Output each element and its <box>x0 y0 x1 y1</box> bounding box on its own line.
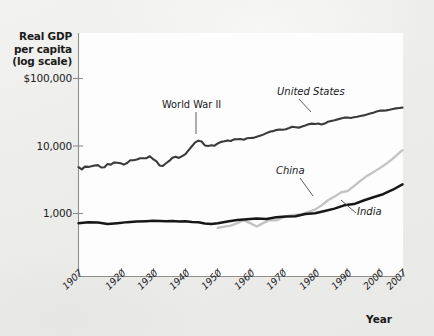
y-axis-title: Real GDP per capita (log scale) <box>6 30 72 68</box>
x-axis-title: Year <box>366 313 392 325</box>
y-tick-label-1000: 1,000 <box>6 207 72 219</box>
annotation-world-war-ii: World War II <box>162 99 221 110</box>
y-tick-label-100000: $100,000 <box>6 72 72 84</box>
y-tick-label-10000: 10,000 <box>6 140 72 152</box>
annotation-united-states: United States <box>277 86 345 97</box>
annotation-india: India <box>357 206 382 217</box>
series-line-united-states <box>79 108 403 170</box>
leader-line-united-states <box>299 99 311 112</box>
annotation-china: China <box>276 165 305 176</box>
leader-line-china <box>300 178 313 196</box>
series-line-india <box>79 184 403 224</box>
